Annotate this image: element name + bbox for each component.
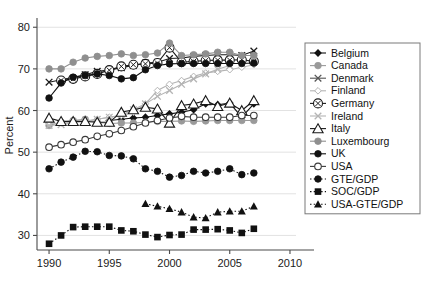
legend-label: Ireland: [331, 110, 363, 122]
y-axis-label: Percent: [3, 117, 15, 155]
legend-label: GTE/GDP: [331, 173, 378, 185]
x-tick-label: 2010: [278, 257, 302, 269]
legend-label: USA: [331, 160, 353, 172]
x-tick-label: 1995: [97, 257, 121, 269]
x-tick-label: 1990: [37, 257, 61, 269]
x-tick-label: 2005: [218, 257, 242, 269]
legend-label: Denmark: [331, 72, 374, 84]
legend-label: Canada: [331, 59, 368, 71]
series-usa: [46, 112, 257, 150]
legend-item-germany[interactable]: Germany: [310, 97, 375, 109]
y-tick-label: 80: [18, 21, 30, 33]
legend-label: UK: [331, 147, 346, 159]
chart-figure: 30405060708019901995200020052010PercentB…: [0, 0, 425, 296]
y-tick-label: 60: [18, 105, 30, 117]
legend-label: Luxembourg: [331, 135, 390, 147]
series-usa-gte-gdp: [141, 200, 257, 221]
series-gte-gdp: [46, 148, 257, 180]
y-tick-label: 70: [18, 63, 30, 75]
legend-label: Germany: [331, 97, 375, 109]
legend-label: Belgium: [331, 47, 369, 59]
x-tick-label: 2000: [157, 257, 181, 269]
legend-label: SOC/GDP: [331, 185, 379, 197]
y-tick-label: 30: [18, 229, 30, 241]
y-tick-label: 40: [18, 188, 30, 200]
y-tick-label: 50: [18, 146, 30, 158]
chart-canvas: 30405060708019901995200020052010PercentB…: [0, 0, 425, 296]
legend-label: USA-GTE/GDP: [331, 198, 403, 210]
legend-label: Italy: [331, 122, 351, 134]
legend-label: Finland: [331, 84, 366, 96]
